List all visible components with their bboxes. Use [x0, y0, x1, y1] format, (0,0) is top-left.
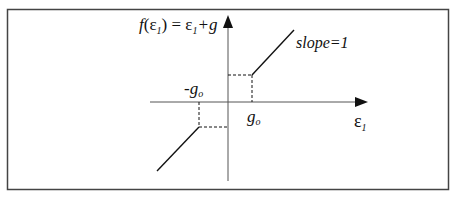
function-label: f(ε1) = ε1+g [139, 15, 217, 36]
x-axis-arrow-icon [355, 97, 368, 107]
neg-go-label: -go [184, 79, 203, 99]
lower-slope-line [157, 127, 199, 171]
go-label: go [247, 107, 261, 127]
slope-label: slope=1 [296, 34, 349, 52]
upper-slope-line [252, 30, 294, 75]
y-axis-arrow-icon [223, 15, 233, 28]
x-axis-label: ε1 [354, 111, 367, 133]
dead-zone-diagram: f(ε1) = ε1+g slope=1 -go go ε1 [0, 0, 455, 197]
